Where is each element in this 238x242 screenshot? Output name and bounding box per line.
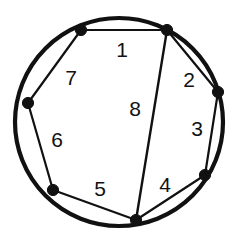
vertex-point-top-left <box>75 24 86 35</box>
region-label-6: 6 <box>51 128 63 151</box>
circle-region-diagram: 1 2 3 4 5 6 7 8 <box>0 0 238 242</box>
region-label-8: 8 <box>129 97 141 120</box>
vertex-point-right <box>212 86 223 97</box>
vertex-point-bottom <box>130 214 141 225</box>
vertex-point-lower-left <box>47 184 58 195</box>
region-label-1: 1 <box>116 38 128 61</box>
region-label-5: 5 <box>94 177 106 200</box>
vertex-point-left <box>22 97 33 108</box>
diagram-canvas: 1 2 3 4 5 6 7 8 <box>0 0 238 242</box>
vertex-point-top-right <box>161 24 172 35</box>
region-label-4: 4 <box>159 173 171 196</box>
vertex-point-lower-right <box>199 169 210 180</box>
region-label-3: 3 <box>191 117 203 140</box>
region-label-7: 7 <box>65 66 77 89</box>
region-label-2: 2 <box>183 68 195 91</box>
